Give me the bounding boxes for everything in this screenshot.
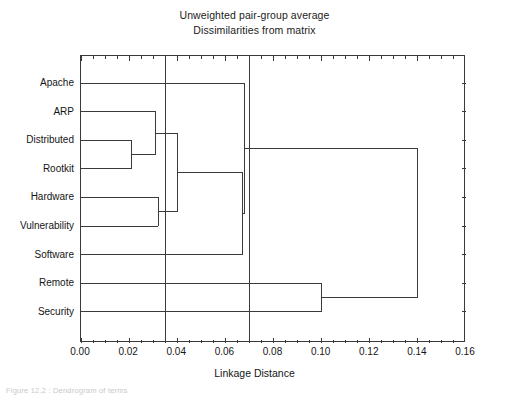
leaf-label-distributed: Distributed bbox=[26, 134, 74, 145]
leaf-label-vulnerability: Vulnerability bbox=[20, 220, 74, 231]
x-tick-2: 0.04 bbox=[167, 346, 186, 357]
x-tick-1: 0.02 bbox=[118, 346, 137, 357]
leaf-label-security: Security bbox=[38, 305, 74, 316]
leaf-label-column: ApacheARPDistributedRootkitHardwareVulne… bbox=[0, 0, 78, 397]
leaf-label-apache: Apache bbox=[40, 77, 74, 88]
dendrogram-plot-area bbox=[80, 55, 465, 342]
x-tick-0: 0.00 bbox=[70, 346, 89, 357]
x-tick-7: 0.14 bbox=[407, 346, 426, 357]
leaf-label-arp: ARP bbox=[53, 105, 74, 116]
leaf-label-software: Software bbox=[35, 248, 74, 259]
x-tick-4: 0.08 bbox=[263, 346, 282, 357]
figure-page: Unweighted pair-group average Dissimilar… bbox=[0, 0, 509, 397]
dendrogram-svg bbox=[81, 56, 466, 343]
figure-caption: Figure 12.2 : Dendrogram of terms bbox=[6, 386, 128, 395]
x-axis-title: Linkage Distance bbox=[0, 367, 509, 379]
x-tick-3: 0.06 bbox=[215, 346, 234, 357]
x-tick-6: 0.12 bbox=[359, 346, 378, 357]
leaf-label-rootkit: Rootkit bbox=[43, 162, 74, 173]
leaf-label-hardware: Hardware bbox=[31, 191, 74, 202]
x-tick-8: 0.16 bbox=[455, 346, 474, 357]
x-tick-5: 0.10 bbox=[311, 346, 330, 357]
leaf-label-remote: Remote bbox=[39, 277, 74, 288]
